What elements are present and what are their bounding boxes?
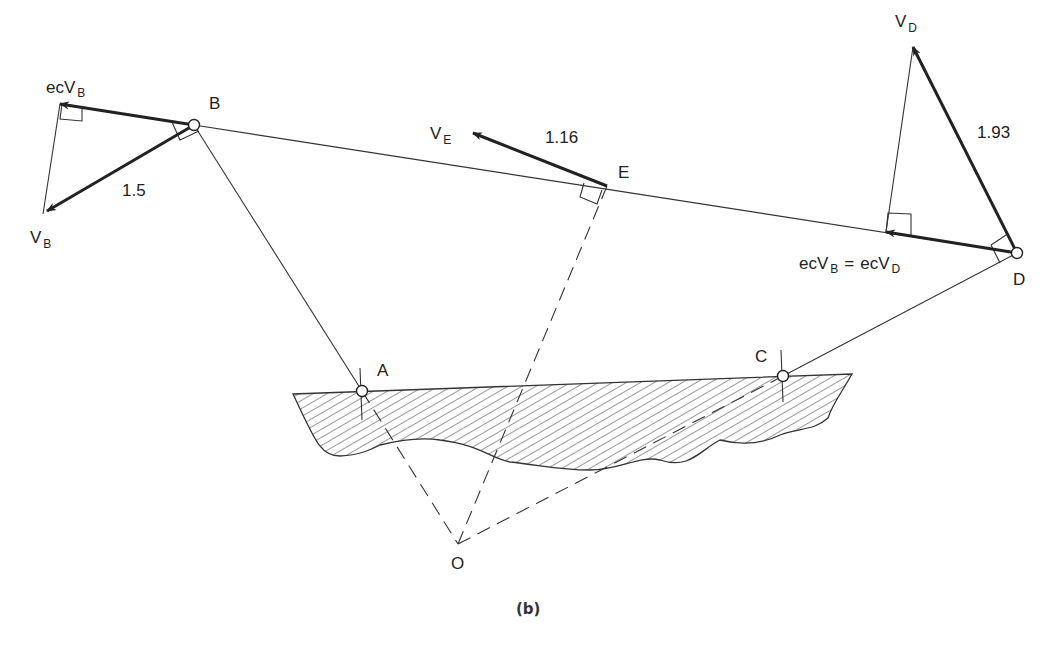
label-e: E — [618, 163, 629, 182]
vector-ecvd — [886, 232, 1017, 253]
pin-b — [189, 120, 200, 131]
perp-line-vb — [43, 104, 60, 214]
vector-vd — [913, 47, 1017, 253]
value-ve: 1.16 — [545, 128, 578, 147]
value-vd: 1.93 — [977, 123, 1010, 142]
pin-c — [778, 371, 789, 382]
ground-hatched-region — [293, 374, 852, 470]
dashed-line-eo — [458, 186, 607, 544]
figure-caption: (b) — [516, 600, 540, 618]
label-ve: VE — [430, 124, 451, 147]
label-ecvb-eq-ecvd: ecVB=ecVD — [799, 254, 901, 276]
vector-vb — [47, 125, 194, 211]
label-c: C — [755, 347, 767, 366]
linkage-velocity-diagram: A B C D E O ecVB VB 1.5 VE 1.16 VD 1.93 … — [0, 0, 1056, 650]
label-vb: VB — [30, 228, 51, 251]
vector-ecvb — [60, 104, 194, 125]
label-vd: VD — [895, 12, 917, 35]
label-o: O — [451, 554, 464, 573]
right-angle-d — [991, 235, 1006, 245]
pin-a — [357, 386, 368, 397]
vector-ve — [473, 133, 607, 186]
value-vb: 1.5 — [122, 181, 146, 200]
link-ab — [194, 125, 362, 391]
perp-line-vd — [886, 47, 913, 232]
label-ecvb-top: ecVB — [46, 78, 85, 100]
right-angle-e — [580, 183, 602, 204]
label-b: B — [209, 94, 220, 113]
pin-d — [1012, 248, 1023, 259]
label-d: D — [1013, 270, 1025, 289]
label-a: A — [377, 361, 389, 380]
